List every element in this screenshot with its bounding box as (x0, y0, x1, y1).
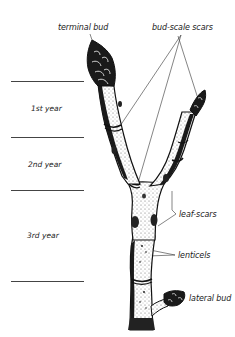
twig-diagram: 1st year 2nd year 3rd year terminal bud … (0, 0, 235, 337)
lateral-bud (151, 291, 185, 316)
twig-trunk (128, 236, 155, 330)
leader-bud-scale-scar-1 (120, 35, 181, 126)
twig-fork-junction (125, 178, 164, 240)
leader-terminal-bud (90, 34, 92, 40)
leader-leaf-scar-2 (158, 214, 176, 226)
twig-right-branch (150, 112, 196, 186)
terminal-bud (87, 40, 115, 86)
leader-leaf-scar-1 (172, 191, 176, 214)
right-branch-bud (190, 90, 206, 116)
leader-lenticel-1 (150, 250, 175, 255)
twig-left-branch (98, 84, 140, 184)
leader-bud-scale-scar-3 (178, 36, 200, 105)
twig-illustration (0, 0, 235, 337)
